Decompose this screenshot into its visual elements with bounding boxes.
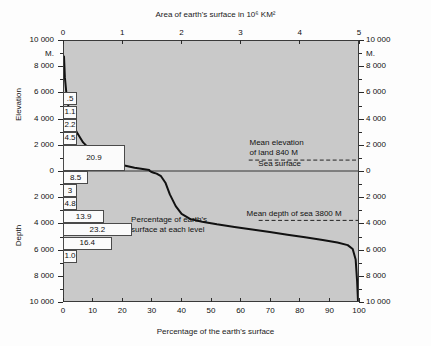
bottom-axis-tick <box>151 298 152 302</box>
right-axis-minor-tick <box>359 106 362 107</box>
level-band-bar: 16.4 <box>63 237 112 250</box>
top-axis-tick-label: 3 <box>231 28 251 37</box>
right-axis-tick-label: 2 000 <box>366 140 386 149</box>
left-axis-tick-label: 2 000 <box>0 192 54 201</box>
level-band-value: .5 <box>67 95 74 103</box>
level-band-bar: 8.5 <box>63 171 88 184</box>
bottom-axis-tick <box>270 298 271 302</box>
top-axis-tick <box>299 40 300 44</box>
plot-area <box>63 40 359 302</box>
right-axis-tick-label: 8 000 <box>366 271 386 280</box>
left-axis-minor-tick <box>60 184 63 185</box>
left-axis-depth-label: Depth <box>14 205 23 265</box>
left-axis-minor-tick <box>60 263 63 264</box>
left-axis-tick <box>58 302 63 303</box>
left-axis-unit-label: M. <box>0 49 54 58</box>
left-axis-tick-label: 2 000 <box>0 140 54 149</box>
bottom-axis-tick-label: 90 <box>317 306 341 315</box>
left-axis-tick <box>58 171 63 172</box>
top-axis-tick-label: 0 <box>53 28 73 37</box>
level-band-value: 4.8 <box>65 200 76 208</box>
right-axis-tick-label: 0 <box>366 166 370 175</box>
bottom-axis-tick-label: 60 <box>229 306 253 315</box>
percentage-callout-annotation: Percentage of earth's surface at each le… <box>128 214 210 236</box>
right-axis-tick <box>359 302 364 303</box>
left-axis-tick <box>58 40 63 41</box>
level-band-bar: 23.2 <box>63 223 132 236</box>
percentage-callout-line2: surface at each level <box>131 225 207 235</box>
left-axis-minor-tick <box>60 106 63 107</box>
bottom-axis-tick <box>240 298 241 302</box>
sea-surface-annotation: Sea surface <box>258 159 301 168</box>
left-axis-tick <box>58 276 63 277</box>
bottom-axis-tick-label: 100 <box>347 306 371 315</box>
left-axis-minor-tick <box>60 237 63 238</box>
level-band-value: 23.2 <box>90 226 106 234</box>
left-axis-minor-tick <box>60 289 63 290</box>
right-axis-tick <box>359 145 364 146</box>
percentage-callout-line1: Percentage of earth's <box>131 215 207 225</box>
left-axis-tick <box>58 119 63 120</box>
right-axis-minor-tick <box>359 158 362 159</box>
bottom-axis-tick-label: 50 <box>199 306 223 315</box>
right-axis-tick-label: 10 000 <box>366 297 390 306</box>
mean-elevation-annotation: Mean elevation of land 840 M <box>249 138 303 158</box>
level-band-value: 20.9 <box>86 154 102 162</box>
bottom-axis-tick-label: 80 <box>288 306 312 315</box>
level-band-value: 4.5 <box>64 134 75 142</box>
left-axis-tick-label: 10 000 <box>0 35 54 44</box>
bottom-axis-tick <box>329 298 330 302</box>
left-axis-tick-label: 4 000 <box>0 114 54 123</box>
bottom-axis-tick <box>299 298 300 302</box>
top-axis-tick-label: 4 <box>290 28 310 37</box>
bottom-axis-tick <box>92 298 93 302</box>
level-band-bar: 20.9 <box>63 145 125 171</box>
right-axis-tick <box>359 66 364 67</box>
left-axis-minor-tick <box>60 79 63 80</box>
bottom-axis-tick <box>122 298 123 302</box>
right-axis-minor-tick <box>359 132 362 133</box>
left-axis-minor-tick <box>60 132 63 133</box>
right-axis-minor-tick <box>359 237 362 238</box>
right-axis-tick-label: 2 000 <box>366 192 386 201</box>
right-axis-unit-label: M. <box>366 49 375 58</box>
level-band-value: 1.1 <box>64 108 75 116</box>
right-axis-tick <box>359 119 364 120</box>
right-axis-minor-tick <box>359 184 362 185</box>
level-band-value: 2.2 <box>64 121 75 129</box>
left-axis-tick <box>58 223 63 224</box>
level-band-bar: 4.8 <box>63 197 77 210</box>
right-axis-tick <box>359 40 364 41</box>
level-band-value: 8.5 <box>70 174 81 182</box>
curve-canvas <box>64 41 358 301</box>
right-axis-tick-label: 6 000 <box>366 87 386 96</box>
right-axis-tick <box>359 197 364 198</box>
left-axis-tick <box>58 145 63 146</box>
level-band-value: 1.0 <box>64 252 75 260</box>
top-axis-title: Area of earth's surface in 10⁶ KM² <box>0 10 431 19</box>
left-axis-minor-tick <box>60 158 63 159</box>
right-axis-tick-label: 10 000 <box>366 35 390 44</box>
hypsographic-curve-figure: Area of earth's surface in 10⁶ KM² Perce… <box>0 0 431 346</box>
left-axis-minor-tick <box>60 53 63 54</box>
left-axis-tick <box>58 197 63 198</box>
right-axis-minor-tick <box>359 210 362 211</box>
left-axis-elevation-label: Elevation <box>14 74 23 134</box>
right-axis-tick <box>359 276 364 277</box>
top-axis-tick <box>122 40 123 44</box>
bottom-axis-tick-label: 10 <box>81 306 105 315</box>
bottom-axis-tick-label: 20 <box>110 306 134 315</box>
left-axis-tick <box>58 66 63 67</box>
left-axis-tick <box>58 92 63 93</box>
left-axis-tick-label: 10 000 <box>0 297 54 306</box>
level-band-bar: .5 <box>63 92 77 105</box>
right-axis-tick-label: 4 000 <box>366 218 386 227</box>
bottom-axis-tick <box>211 298 212 302</box>
level-band-bar: 2.2 <box>63 119 77 132</box>
left-axis-tick-label: 8 000 <box>0 271 54 280</box>
level-band-value: 3 <box>68 187 72 195</box>
bottom-axis-tick-label: 30 <box>140 306 164 315</box>
level-band-bar: 4.5 <box>63 132 77 145</box>
right-axis-tick-label: 4 000 <box>366 114 386 123</box>
left-axis-tick-label: 6 000 <box>0 245 54 254</box>
